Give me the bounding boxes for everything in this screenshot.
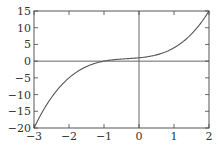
- tick-marks: [34, 11, 209, 128]
- x-tick-label: −2: [61, 130, 77, 143]
- x-tick-label: 0: [136, 130, 143, 143]
- y-tick-label: 0: [24, 55, 31, 68]
- y-tick-label: −15: [8, 105, 31, 118]
- y-tick-label: 15: [17, 5, 31, 18]
- y-tick-label: −5: [15, 72, 31, 85]
- y-tick-labels: −20−15−10−5051015: [8, 5, 31, 135]
- plot-frame: [34, 11, 209, 128]
- x-tick-label: 2: [206, 130, 213, 143]
- y-tick-label: 10: [17, 22, 31, 35]
- x-tick-labels: −3−2−1012: [26, 130, 213, 143]
- zero-axis-lines: [34, 11, 209, 128]
- y-tick-label: −20: [8, 122, 31, 135]
- chart: −3−2−1012 −20−15−10−5051015: [0, 0, 222, 150]
- x-tick-label: −1: [96, 130, 112, 143]
- y-tick-label: −10: [8, 89, 31, 102]
- y-tick-label: 5: [24, 38, 31, 51]
- x-tick-label: 1: [171, 130, 178, 143]
- function-curve: [34, 11, 209, 128]
